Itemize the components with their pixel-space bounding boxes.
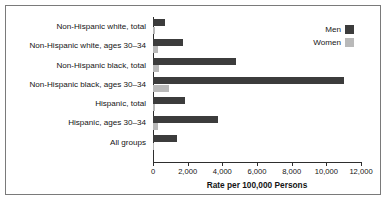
x-axis-title: Rate per 100,000 Persons [153,180,361,190]
bar-men [153,19,165,26]
category-label: Non-Hispanic white, ages 30–34 [6,36,150,55]
legend: Men Women [313,24,354,50]
x-axis-tick-label: 2,000 [178,167,197,176]
x-axis-tick-label: 6,000 [247,167,266,176]
bar-women [153,27,155,34]
x-axis-tick-label: 4,000 [213,167,232,176]
legend-label: Women [313,38,341,47]
category-label: Non-Hispanic black, total [6,56,150,75]
legend-label: Men [325,25,341,34]
bar-women [153,123,158,130]
x-axis-tick-label: 12,000 [349,167,372,176]
x-axis-tick [188,162,189,166]
bar-men [153,97,185,104]
category-label: All groups [6,133,150,152]
bar-women [153,143,154,150]
x-axis-tick-label: 8,000 [282,167,301,176]
plot-area: Non-Hispanic white, total Non-Hispanic w… [6,6,380,194]
bar-men [153,77,344,84]
category-label: Hispanic, total [6,94,150,113]
category-label: Non-Hispanic black, ages 30–34 [6,75,150,94]
bar-row [153,133,361,152]
bar-women [153,104,155,111]
bar-row [153,113,361,132]
bar-row [153,94,361,113]
x-axis-tick-label: 0 [151,167,155,176]
x-axis-tick [222,162,223,166]
category-axis-labels: Non-Hispanic white, total Non-Hispanic w… [6,17,150,152]
bar-men [153,58,236,65]
x-axis-tick [257,162,258,166]
legend-item-women: Women [313,37,354,48]
bar-women [153,85,169,92]
x-axis-tick [292,162,293,166]
x-axis-tick [326,162,327,166]
x-axis-tick [361,162,362,166]
bar-men [153,135,177,142]
legend-item-men: Men [313,24,354,35]
chart-figure: Non-Hispanic white, total Non-Hispanic w… [5,5,381,195]
bar-men [153,39,183,46]
legend-swatch-men-icon [345,25,354,34]
category-label: Hispanic, ages 30–34 [6,113,150,132]
x-axis-tick-label: 10,000 [315,167,338,176]
bar-row [153,56,361,75]
bar-women [153,65,159,72]
bar-row [153,75,361,94]
x-axis-ticks: 02,0004,0006,0008,00010,00012,000 [153,162,361,176]
category-label: Non-Hispanic white, total [6,17,150,36]
x-axis-tick [153,162,154,166]
bar-men [153,116,218,123]
legend-swatch-women-icon [345,38,354,47]
bar-women [153,46,158,53]
